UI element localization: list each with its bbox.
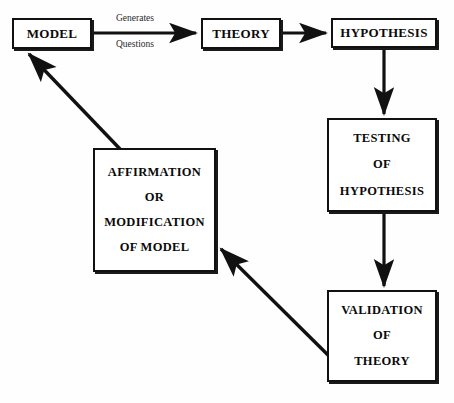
node-validation-of-theory[interactable]: VALIDATION OF THEORY	[327, 290, 437, 382]
edge-label-generates: Generates	[116, 13, 154, 23]
node-affirmation-or-modification-of-model[interactable]: AFFIRMATION OR MODIFICATION OF MODEL	[93, 148, 216, 272]
node-validation-line-1: OF	[373, 329, 391, 342]
node-hypothesis-line-0: HYPOTHESIS	[340, 26, 428, 40]
node-testing-line-1: OF	[373, 158, 391, 171]
node-hypothesis[interactable]: HYPOTHESIS	[331, 18, 437, 48]
edge-validation-to-affirmation	[221, 249, 330, 357]
diagram-canvas: MODEL THEORY HYPOTHESIS TESTING OF HYPOT…	[0, 0, 454, 403]
edge-label-questions: Questions	[116, 39, 154, 49]
node-theory-line-0: THEORY	[212, 27, 270, 41]
node-affirmation-line-0: AFFIRMATION	[108, 166, 201, 179]
node-validation-line-2: THEORY	[354, 355, 410, 368]
node-model[interactable]: MODEL	[12, 18, 92, 49]
node-affirmation-line-2: MODIFICATION	[104, 216, 205, 229]
node-theory[interactable]: THEORY	[201, 18, 281, 49]
node-affirmation-line-3: OF MODEL	[120, 241, 190, 254]
node-testing-of-hypothesis[interactable]: TESTING OF HYPOTHESIS	[327, 118, 437, 212]
node-testing-line-0: TESTING	[353, 132, 411, 145]
node-model-line-0: MODEL	[27, 27, 78, 41]
edge-affirmation-to-model	[29, 54, 120, 149]
node-validation-line-0: VALIDATION	[341, 304, 423, 317]
node-testing-line-2: HYPOTHESIS	[340, 185, 424, 198]
node-affirmation-line-1: OR	[145, 191, 164, 204]
